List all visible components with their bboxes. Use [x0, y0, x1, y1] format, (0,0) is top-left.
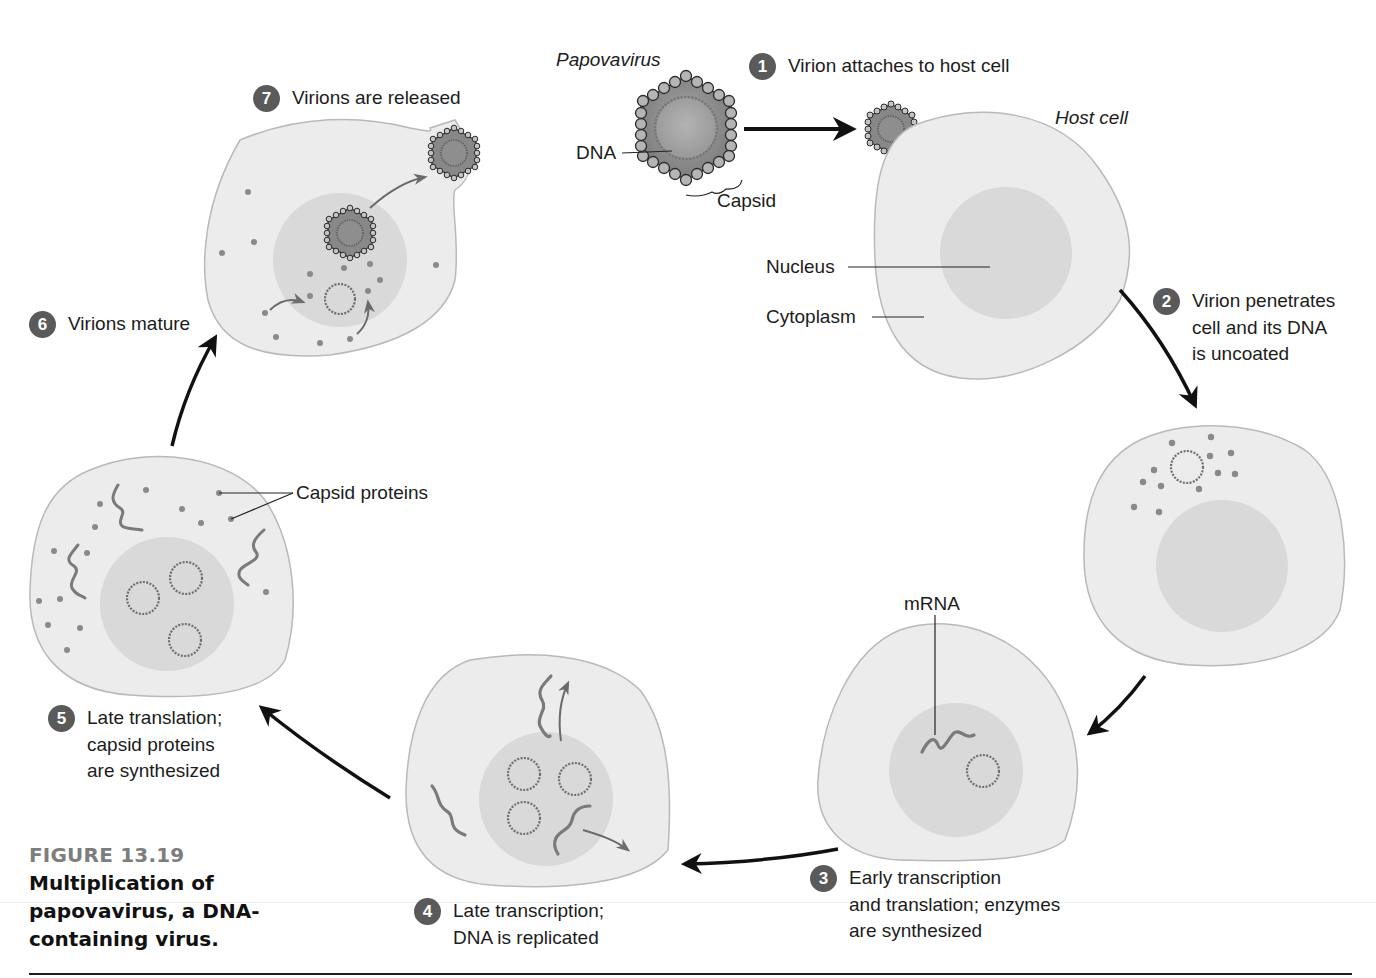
step-badge: 3 — [810, 865, 837, 892]
arrow-step3 — [1090, 676, 1145, 733]
cytoplasm-label: Cytoplasm — [766, 304, 856, 330]
step-badge: 5 — [48, 705, 75, 732]
step-1-line: Virion attaches to host cell — [788, 53, 1009, 80]
step-1: 1 Virion attaches to host cell — [749, 53, 1009, 80]
cell-step3 — [818, 615, 1078, 861]
arrow-step6 — [172, 338, 215, 446]
papovavirus-virion-large — [622, 71, 742, 197]
step-badge: 7 — [253, 85, 280, 112]
step-5-line: capsid proteins — [87, 732, 222, 759]
step-badge: 4 — [414, 898, 441, 925]
step-3-line: are synthesized — [849, 918, 1060, 945]
figure-title: Multiplication of papovavirus, a DNA- co… — [29, 869, 259, 953]
figure-title-line: Multiplication of — [29, 869, 259, 897]
step-2: 2 Virion penetrates cell and its DNA is … — [1153, 288, 1335, 368]
cell-step2 — [1084, 426, 1344, 666]
step-7-line: Virions are released — [292, 85, 461, 112]
host-cell-label: Host cell — [1055, 105, 1128, 131]
step-badge: 2 — [1153, 288, 1180, 315]
step-6-line: Virions mature — [68, 311, 190, 338]
bottom-rule — [29, 973, 1352, 975]
step-4-line: DNA is replicated — [453, 925, 604, 952]
step-6: 6 Virions mature — [29, 311, 190, 338]
step-3-line: and translation; enzymes — [849, 892, 1060, 919]
nucleus-label: Nucleus — [766, 254, 835, 280]
figure-title-line: papovavirus, a DNA- — [29, 897, 259, 925]
step-2-line: cell and its DNA — [1192, 315, 1335, 342]
step-3-line: Early transcription — [849, 865, 1060, 892]
arrow-step5 — [262, 708, 390, 798]
step-5-line: are synthesized — [87, 758, 222, 785]
step-5-line: Late translation; — [87, 705, 222, 732]
mrna-label: mRNA — [904, 591, 960, 617]
step-7: 7 Virions are released — [253, 85, 461, 112]
arrow-step4 — [685, 849, 838, 864]
step-4: 4 Late transcription; DNA is replicated — [414, 898, 604, 951]
dna-label: DNA — [576, 140, 616, 166]
step-4-line: Late transcription; — [453, 898, 604, 925]
figure-title-line: containing virus. — [29, 925, 259, 953]
host-cell-step1 — [848, 112, 1130, 379]
papovavirus-cycle-diagram — [0, 0, 1376, 978]
cell-step5 — [30, 457, 293, 697]
figure-caption: FIGURE 13.19 Multiplication of papovavir… — [29, 841, 259, 953]
step-2-line: Virion penetrates — [1192, 288, 1335, 315]
capsid-proteins-label: Capsid proteins — [296, 480, 428, 506]
step-3: 3 Early transcription and translation; e… — [810, 865, 1060, 945]
capsid-label: Capsid — [717, 188, 776, 214]
step-badge: 6 — [29, 311, 56, 338]
figure-number: FIGURE 13.19 — [29, 841, 259, 869]
step-badge: 1 — [749, 53, 776, 80]
papovavirus-label: Papovavirus — [556, 47, 661, 73]
cell-step4 — [406, 655, 670, 887]
step-5: 5 Late translation; capsid proteins are … — [48, 705, 222, 785]
step-2-line: is uncoated — [1192, 341, 1335, 368]
